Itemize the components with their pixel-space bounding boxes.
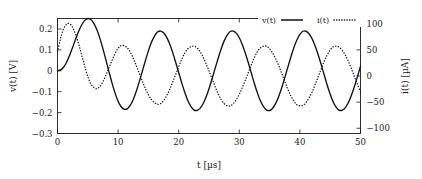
y2-tick-label: −100 [367, 123, 390, 133]
y-axis-left-label: v(t) [V] [8, 60, 18, 93]
y2-tick-label: 100 [367, 19, 383, 29]
y2-tick-label: 0 [367, 71, 372, 81]
y2-tick-label: 50 [367, 45, 378, 55]
x-tick-label: 50 [355, 137, 366, 147]
y-tick-label: 0.1 [39, 45, 53, 55]
x-tick-label: 10 [113, 137, 124, 147]
y2-tick-label: −50 [367, 97, 385, 107]
plot-frame [58, 19, 361, 134]
x-tick-label: 20 [173, 137, 184, 147]
y-tick-label: 0 [47, 66, 52, 76]
y-tick-label: −0.1 [32, 87, 53, 97]
y-tick-label: 0.2 [39, 24, 53, 34]
x-tick-label: 40 [294, 137, 305, 147]
y-axis-right-ticks: 100500−50−100 [357, 19, 390, 134]
y-tick-label: −0.3 [32, 129, 53, 139]
legend-label-v: v(t) [261, 16, 276, 25]
series-line-v [58, 18, 361, 110]
data-curves [58, 18, 361, 110]
y-axis-right-label: i(t) [µA] [400, 58, 410, 94]
figure-container: 01020304050 0.20.10−0.1−0.2−0.3 100500−5… [0, 0, 422, 179]
series-line-i [58, 23, 361, 106]
x-tick-label: 0 [55, 137, 60, 147]
x-tick-label: 30 [234, 137, 245, 147]
y-tick-label: −0.2 [32, 108, 53, 118]
x-axis-label: t [µs] [197, 160, 221, 170]
chart-legend: v(t) i(t) [258, 14, 362, 27]
legend-label-i: i(t) [317, 16, 329, 25]
line-chart: 01020304050 0.20.10−0.1−0.2−0.3 100500−5… [0, 0, 422, 179]
